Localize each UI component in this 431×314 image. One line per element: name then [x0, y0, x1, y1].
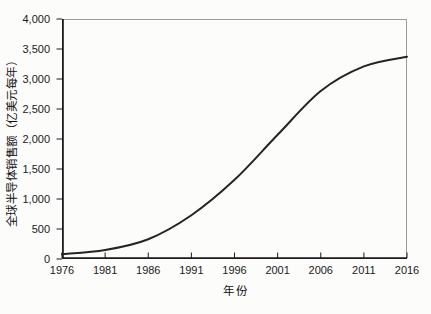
y-tick-label: 0 — [44, 254, 50, 265]
x-tick-label: 1976 — [50, 265, 74, 276]
chart-figure: 全球半导体销售额（亿美元每年） 197619811986199119962001… — [0, 0, 431, 314]
x-tick-label: 2001 — [265, 265, 289, 276]
y-tick-label: 4,000 — [22, 14, 50, 25]
y-tick-label: 2,000 — [22, 134, 50, 145]
x-tick-label: 2016 — [395, 265, 419, 276]
y-tick-label: 1,500 — [22, 164, 50, 175]
y-tick-label: 3,000 — [22, 74, 50, 85]
x-axis-title: 年份 — [223, 286, 249, 298]
plot-frame — [63, 20, 407, 259]
axis-lines — [62, 19, 407, 259]
y-tick-label: 2,500 — [22, 104, 50, 115]
y-tick-label: 500 — [32, 224, 50, 235]
x-tick-label: 1981 — [93, 265, 117, 276]
sales-curve — [62, 57, 407, 254]
x-tick-label: 2011 — [352, 265, 376, 276]
x-tick-label: 1991 — [179, 265, 203, 276]
y-axis-title: 全球半导体销售额（亿美元每年） — [7, 55, 19, 228]
y-tick-label: 3,500 — [22, 44, 50, 55]
x-tick-label: 1996 — [222, 265, 246, 276]
x-tick-label: 2006 — [309, 265, 333, 276]
y-tick-label: 1,000 — [22, 194, 50, 205]
plot-area — [62, 19, 407, 259]
x-tick-label: 1986 — [136, 265, 160, 276]
